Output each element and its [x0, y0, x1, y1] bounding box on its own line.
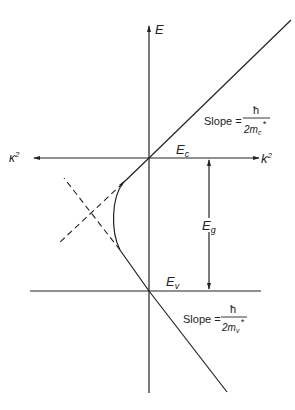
svg-text:2mc*: 2mc*: [243, 119, 266, 136]
svg-text:Slope =: Slope =: [204, 115, 242, 127]
ev-label: Ev: [166, 274, 180, 291]
svg-text:ħ: ħ: [230, 303, 236, 315]
svg-text:Slope =: Slope =: [183, 313, 221, 325]
eg-label: Eg: [202, 218, 216, 235]
svg-text:2mv*: 2mv*: [221, 317, 244, 334]
valence-band-line: [149, 291, 227, 392]
energy-axis-label: E: [155, 22, 164, 37]
dashed-asymptote-2: [64, 178, 120, 250]
kappa-label: κ2: [9, 150, 20, 165]
conduction-slope-label: Slope = ħ 2mc*: [204, 104, 270, 136]
valence-slope-label: Slope = ħ 2mv*: [183, 303, 247, 334]
svg-text:ħ: ħ: [253, 104, 259, 116]
band-diagram: E κ2 k2 Ec Ev Eg Slope = ħ 2mc* Slope = …: [0, 0, 295, 410]
gap-curve: [114, 158, 149, 291]
conduction-band-line: [149, 20, 291, 158]
ec-label: Ec: [176, 142, 190, 159]
k-label: k2: [261, 151, 273, 166]
